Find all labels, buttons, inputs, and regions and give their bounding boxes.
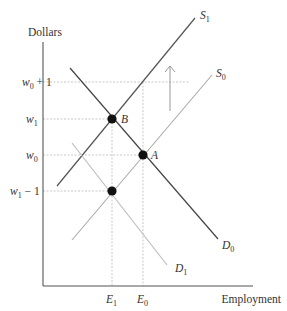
x-tick-E1: E1 — [105, 293, 117, 308]
y-axis-label: Dollars — [28, 26, 62, 38]
point-B-dot — [107, 114, 116, 123]
point-A-dot — [138, 150, 147, 159]
curve-D1 — [72, 143, 167, 265]
label-point-B: B — [121, 113, 128, 125]
label-S1: S1 — [200, 9, 210, 24]
labor-market-diagram: Dollars Employment w0 + 1 w1 w0 w1 − 1 E… — [0, 0, 287, 311]
y-tick-w0: w0 — [26, 149, 38, 164]
label-D1: D1 — [174, 262, 187, 277]
curve-S1 — [57, 18, 195, 186]
point-lower-dot — [107, 186, 116, 195]
shift-up-arrow-icon — [165, 66, 175, 111]
x-axis-label: Employment — [222, 293, 282, 306]
x-tick-E0: E0 — [136, 293, 148, 308]
label-D0: D0 — [221, 239, 234, 254]
y-tick-w0-plus-1: w0 + 1 — [22, 76, 52, 91]
y-tick-w1-minus-1: w1 − 1 — [10, 185, 40, 200]
label-point-A: A — [150, 149, 159, 161]
label-S0: S0 — [216, 67, 226, 82]
guide-lines — [43, 82, 190, 286]
y-tick-w1: w1 — [26, 113, 38, 128]
